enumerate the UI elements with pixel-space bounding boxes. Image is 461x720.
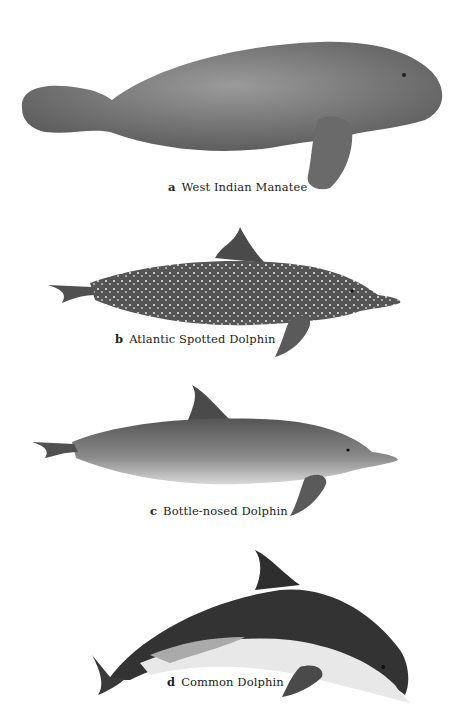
species-name: Common Dolphin: [181, 675, 284, 689]
caption-spotted-dolphin: bAtlantic Spotted Dolphin: [115, 332, 276, 346]
figure-common-dolphin: dCommon Dolphin: [0, 545, 461, 720]
figure-letter: d: [167, 675, 175, 689]
figure-letter: b: [115, 332, 123, 346]
caption-common-dolphin: dCommon Dolphin: [167, 675, 284, 689]
figure-letter: a: [168, 180, 176, 194]
caption-bottlenose-dolphin: cBottle-nosed Dolphin: [150, 504, 288, 518]
figure-manatee: aWest Indian Manatee: [0, 0, 461, 200]
caption-manatee: aWest Indian Manatee: [168, 180, 307, 194]
figure-bottlenose-dolphin: cBottle-nosed Dolphin: [0, 380, 461, 530]
figure-spotted-dolphin: bAtlantic Spotted Dolphin: [0, 215, 461, 365]
common-dolphin-illustration: [0, 545, 461, 720]
manatee-illustration: [0, 0, 461, 200]
figure-letter: c: [150, 504, 157, 518]
species-name: Atlantic Spotted Dolphin: [129, 332, 275, 346]
species-name: West Indian Manatee: [182, 180, 308, 194]
species-name: Bottle-nosed Dolphin: [163, 504, 288, 518]
